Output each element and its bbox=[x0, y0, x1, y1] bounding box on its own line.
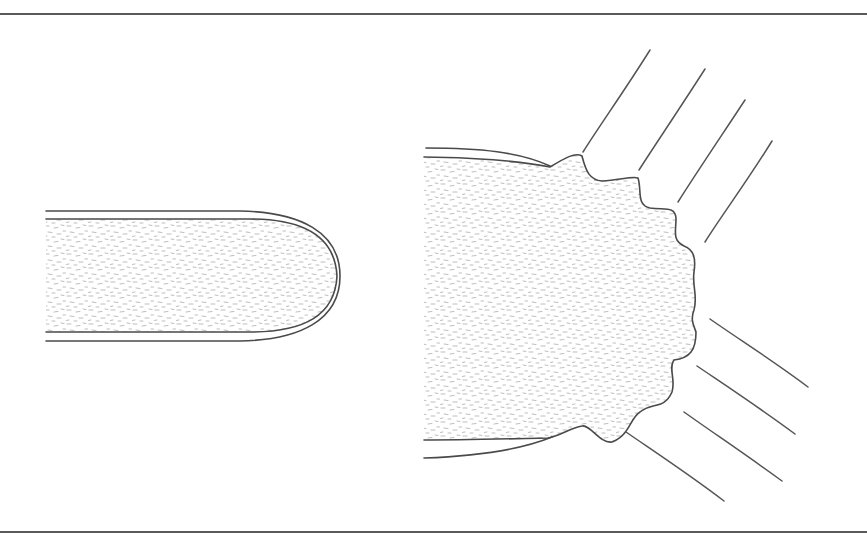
ray-5 bbox=[710, 319, 808, 387]
ray-8 bbox=[626, 432, 724, 501]
ray-4 bbox=[705, 141, 772, 242]
ray-2 bbox=[639, 69, 705, 170]
smooth-rod bbox=[46, 211, 340, 341]
diagram-canvas: Line drawing comparing a smooth rounded … bbox=[0, 0, 867, 540]
diagram-svg bbox=[0, 0, 867, 540]
ray-6 bbox=[697, 366, 795, 434]
burst-fill bbox=[424, 155, 696, 442]
ray-1 bbox=[583, 50, 650, 152]
rod-fill bbox=[46, 219, 337, 332]
ray-3 bbox=[678, 100, 745, 202]
burst-end bbox=[424, 148, 696, 458]
ray-7 bbox=[684, 412, 782, 481]
